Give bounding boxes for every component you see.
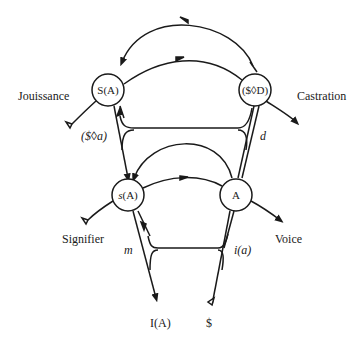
label-signifier: Signifier xyxy=(62,233,104,245)
label-ideal: I(A) xyxy=(150,317,171,329)
voice-branch xyxy=(251,201,280,220)
node-lower-right-label: A xyxy=(232,190,240,201)
label-castration: Castration xyxy=(297,90,346,102)
label-image: i(a) xyxy=(234,244,251,256)
label-fantasy: ($◊a) xyxy=(81,130,107,142)
node-upper-right-label: ($◊D) xyxy=(242,85,268,96)
diagram-lines xyxy=(0,0,363,343)
lower-outer-arc xyxy=(134,144,232,178)
upper-bar xyxy=(120,108,252,128)
label-jouissance: Jouissance xyxy=(18,90,69,102)
image-line xyxy=(212,211,230,305)
jouissance-branch xyxy=(72,101,96,124)
graph-of-desire-diagram: S(A) ($◊D) s(A) A Jouissance Castration … xyxy=(0,0,363,343)
label-desire: d xyxy=(260,130,266,142)
label-voice: Voice xyxy=(275,233,302,245)
node-lower-left-label: s(A) xyxy=(118,190,138,201)
signifier-branch xyxy=(88,201,113,220)
upper-outer-arc xyxy=(122,25,253,66)
upper-inner-arc xyxy=(124,61,242,84)
lower-bar xyxy=(148,234,228,248)
node-upper-left-label: S(A) xyxy=(97,85,118,96)
label-subject: $ xyxy=(206,317,212,329)
castration-branch xyxy=(266,101,296,122)
label-ego: m xyxy=(124,244,133,256)
